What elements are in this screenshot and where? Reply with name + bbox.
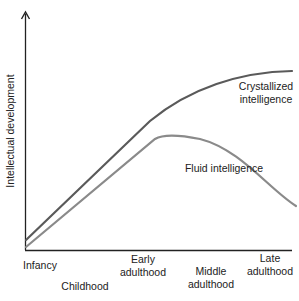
x-tick-infancy: Infancy: [22, 259, 58, 272]
x-tick-early-line1: Early: [118, 253, 168, 266]
annotation-crystallized: Crystallized intelligence: [236, 80, 296, 105]
fluid-intelligence-line: [26, 136, 296, 247]
x-tick-late-line2: adulthood: [245, 265, 295, 278]
x-tick-middle-line1: Middle: [186, 265, 236, 278]
y-axis-label: Intellectual development: [4, 66, 16, 196]
annotation-crystallized-line1: Crystallized: [236, 80, 296, 93]
x-tick-middle-adulthood: Middle adulthood: [186, 265, 236, 290]
x-tick-childhood: Childhood: [60, 280, 110, 293]
x-tick-late-line1: Late: [245, 252, 295, 265]
x-tick-early-adulthood: Early adulthood: [118, 253, 168, 278]
annotation-crystallized-line2: intelligence: [236, 93, 296, 106]
x-tick-late-adulthood: Late adulthood: [245, 252, 295, 277]
annotation-fluid: Fluid intelligence: [184, 162, 264, 175]
x-tick-early-line2: adulthood: [118, 266, 168, 279]
x-tick-middle-line2: adulthood: [186, 278, 236, 291]
